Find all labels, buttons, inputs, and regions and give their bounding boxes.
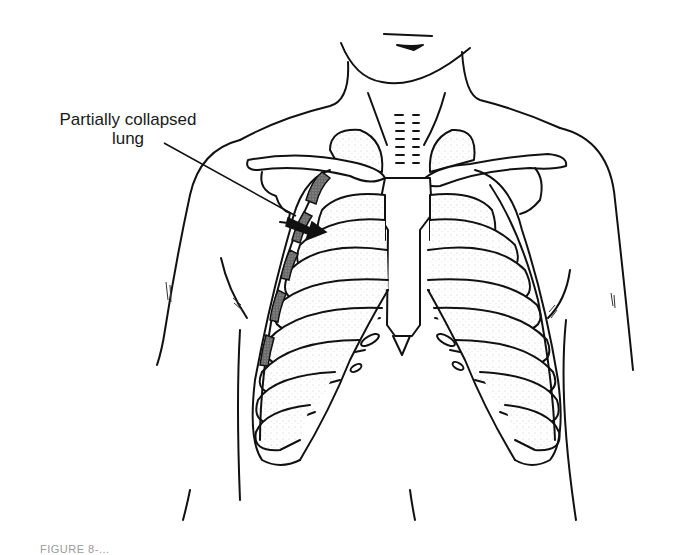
figure-caption: FIGURE 8-...	[40, 543, 660, 555]
callout-label: Partially collapsed lung	[28, 110, 228, 148]
callout-label-line-1: Partially collapsed	[28, 110, 228, 129]
label-leader-line	[164, 143, 296, 216]
callout-label-line-2: lung	[28, 129, 228, 148]
